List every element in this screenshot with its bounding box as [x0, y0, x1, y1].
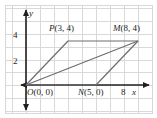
plot-area	[5, 5, 153, 114]
y-tick-label-2: 2	[13, 57, 18, 66]
point-letter-M: M	[113, 23, 121, 33]
point-coords-M: (8, 4)	[121, 23, 141, 33]
point-coords-N: (5, 0)	[84, 87, 104, 97]
point-coords-O: (0, 0)	[34, 87, 54, 97]
diagonal-OM	[26, 41, 138, 85]
x-axis-name: x	[132, 88, 136, 97]
coordinate-plane-figure: 4 2 8 y x P(3, 4) M(8, 4) O(0, 0) N(5, 0…	[0, 0, 157, 118]
point-label-N: N(5, 0)	[78, 88, 104, 97]
point-label-M: M(8, 4)	[113, 24, 140, 33]
x-tick-label-8: 8	[121, 88, 126, 97]
point-coords-P: (3, 4)	[55, 23, 75, 33]
point-label-O: O(0, 0)	[27, 88, 53, 97]
point-label-P: P(3, 4)	[49, 24, 74, 33]
y-axis-name: y	[29, 9, 33, 18]
y-tick-label-4: 4	[13, 31, 18, 40]
